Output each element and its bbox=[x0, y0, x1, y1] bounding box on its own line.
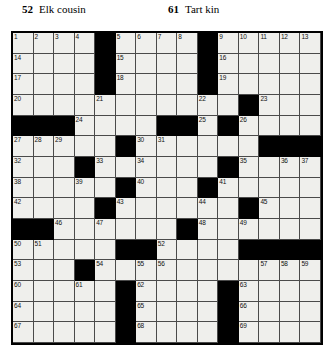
grid-cell[interactable]: 48 bbox=[198, 219, 219, 240]
grid-cell[interactable] bbox=[54, 157, 75, 178]
grid-cell[interactable]: 59 bbox=[300, 260, 321, 281]
grid-cell[interactable] bbox=[75, 74, 96, 95]
grid-cell[interactable]: 64 bbox=[13, 302, 34, 323]
grid-cell[interactable] bbox=[54, 302, 75, 323]
grid-cell[interactable]: 54 bbox=[95, 260, 116, 281]
grid-cell[interactable] bbox=[54, 198, 75, 219]
grid-cell[interactable] bbox=[198, 322, 219, 343]
grid-cell[interactable]: 67 bbox=[13, 322, 34, 343]
grid-cell[interactable]: 27 bbox=[13, 136, 34, 157]
grid-cell[interactable] bbox=[136, 198, 157, 219]
grid-cell[interactable] bbox=[54, 281, 75, 302]
grid-cell[interactable] bbox=[259, 54, 280, 75]
grid-cell[interactable] bbox=[177, 74, 198, 95]
grid-cell[interactable] bbox=[259, 74, 280, 95]
grid-cell[interactable]: 13 bbox=[300, 33, 321, 54]
grid-cell[interactable]: 35 bbox=[239, 157, 260, 178]
grid-cell[interactable]: 66 bbox=[239, 302, 260, 323]
grid-cell[interactable]: 40 bbox=[136, 178, 157, 199]
grid-cell[interactable] bbox=[157, 198, 178, 219]
grid-cell[interactable]: 6 bbox=[136, 33, 157, 54]
grid-cell[interactable] bbox=[34, 302, 55, 323]
grid-cell[interactable] bbox=[300, 219, 321, 240]
grid-cell[interactable] bbox=[198, 281, 219, 302]
grid-cell[interactable] bbox=[157, 219, 178, 240]
grid-cell[interactable] bbox=[280, 322, 301, 343]
grid-cell[interactable] bbox=[54, 240, 75, 261]
grid-cell[interactable]: 56 bbox=[157, 260, 178, 281]
grid-cell[interactable]: 11 bbox=[259, 33, 280, 54]
grid-cell[interactable] bbox=[177, 178, 198, 199]
grid-cell[interactable]: 69 bbox=[239, 322, 260, 343]
grid-cell[interactable]: 45 bbox=[259, 198, 280, 219]
grid-cell[interactable] bbox=[54, 74, 75, 95]
grid-cell[interactable] bbox=[95, 178, 116, 199]
grid-cell[interactable] bbox=[259, 281, 280, 302]
grid-cell[interactable]: 29 bbox=[54, 136, 75, 157]
grid-cell[interactable]: 18 bbox=[116, 74, 137, 95]
grid-cell[interactable]: 32 bbox=[13, 157, 34, 178]
grid-cell[interactable] bbox=[34, 157, 55, 178]
grid-cell[interactable] bbox=[239, 136, 260, 157]
grid-cell[interactable]: 9 bbox=[218, 33, 239, 54]
grid-cell[interactable] bbox=[157, 302, 178, 323]
grid-cell[interactable]: 47 bbox=[95, 219, 116, 240]
grid-cell[interactable]: 53 bbox=[13, 260, 34, 281]
grid-cell[interactable]: 30 bbox=[136, 136, 157, 157]
grid-cell[interactable]: 23 bbox=[259, 95, 280, 116]
grid-cell[interactable] bbox=[75, 95, 96, 116]
grid-cell[interactable]: 49 bbox=[239, 219, 260, 240]
grid-cell[interactable] bbox=[75, 322, 96, 343]
grid-cell[interactable]: 52 bbox=[157, 240, 178, 261]
grid-cell[interactable] bbox=[239, 178, 260, 199]
grid-cell[interactable] bbox=[280, 281, 301, 302]
grid-cell[interactable]: 15 bbox=[116, 54, 137, 75]
grid-cell[interactable]: 10 bbox=[239, 33, 260, 54]
grid-cell[interactable] bbox=[116, 116, 137, 137]
grid-cell[interactable] bbox=[177, 157, 198, 178]
grid-cell[interactable] bbox=[95, 322, 116, 343]
grid-cell[interactable] bbox=[300, 302, 321, 323]
grid-cell[interactable] bbox=[116, 95, 137, 116]
grid-cell[interactable] bbox=[300, 178, 321, 199]
grid-cell[interactable] bbox=[280, 198, 301, 219]
grid-cell[interactable]: 19 bbox=[218, 74, 239, 95]
grid-cell[interactable] bbox=[218, 260, 239, 281]
grid-cell[interactable] bbox=[198, 260, 219, 281]
grid-cell[interactable]: 55 bbox=[136, 260, 157, 281]
grid-cell[interactable] bbox=[177, 260, 198, 281]
grid-cell[interactable] bbox=[218, 136, 239, 157]
grid-cell[interactable] bbox=[157, 322, 178, 343]
grid-cell[interactable]: 60 bbox=[13, 281, 34, 302]
grid-cell[interactable]: 16 bbox=[218, 54, 239, 75]
grid-cell[interactable]: 62 bbox=[136, 281, 157, 302]
grid-cell[interactable]: 3 bbox=[54, 33, 75, 54]
grid-cell[interactable] bbox=[280, 178, 301, 199]
grid-cell[interactable]: 65 bbox=[136, 302, 157, 323]
grid-cell[interactable] bbox=[54, 260, 75, 281]
grid-cell[interactable]: 61 bbox=[75, 281, 96, 302]
grid-cell[interactable] bbox=[280, 219, 301, 240]
grid-cell[interactable]: 50 bbox=[13, 240, 34, 261]
grid-cell[interactable]: 12 bbox=[280, 33, 301, 54]
grid-cell[interactable] bbox=[280, 74, 301, 95]
grid-cell[interactable] bbox=[95, 302, 116, 323]
grid-cell[interactable]: 4 bbox=[75, 33, 96, 54]
grid-cell[interactable] bbox=[198, 157, 219, 178]
grid-cell[interactable]: 51 bbox=[34, 240, 55, 261]
grid-cell[interactable] bbox=[34, 198, 55, 219]
grid-cell[interactable]: 20 bbox=[13, 95, 34, 116]
grid-cell[interactable] bbox=[34, 281, 55, 302]
grid-cell[interactable] bbox=[75, 219, 96, 240]
grid-cell[interactable] bbox=[157, 178, 178, 199]
grid-cell[interactable] bbox=[300, 116, 321, 137]
grid-cell[interactable] bbox=[95, 240, 116, 261]
grid-cell[interactable] bbox=[300, 54, 321, 75]
grid-cell[interactable] bbox=[136, 74, 157, 95]
crossword-grid[interactable]: 1234567891011121314151617181920212223242… bbox=[11, 31, 323, 345]
grid-cell[interactable] bbox=[75, 54, 96, 75]
grid-cell[interactable] bbox=[259, 219, 280, 240]
grid-cell[interactable] bbox=[300, 198, 321, 219]
grid-cell[interactable] bbox=[259, 302, 280, 323]
grid-cell[interactable]: 68 bbox=[136, 322, 157, 343]
